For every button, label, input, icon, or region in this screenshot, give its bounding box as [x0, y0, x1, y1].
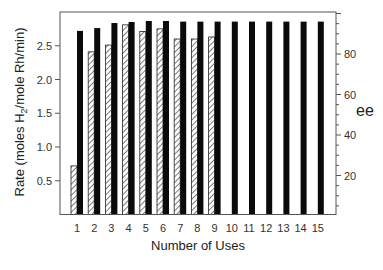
ee-bar — [266, 22, 272, 215]
ee-bar — [301, 22, 307, 215]
rate-bar — [157, 29, 163, 215]
right-tick-label: 60 — [344, 89, 356, 101]
x-tick-label: 4 — [126, 222, 132, 234]
ee-bar — [111, 23, 117, 214]
ee-bar — [94, 28, 100, 214]
right-tick-label: 80 — [344, 48, 356, 60]
rate-bar — [71, 166, 77, 215]
x-tick-label: 3 — [108, 222, 114, 234]
ee-bar — [249, 22, 255, 215]
right-axis: 20406080 — [336, 14, 356, 206]
x-tick-label: 15 — [312, 222, 324, 234]
rate-bar — [88, 52, 94, 215]
bars-group — [71, 21, 324, 215]
ee-bar — [197, 22, 203, 215]
rate-bar — [123, 25, 129, 215]
x-tick-label: 7 — [177, 222, 183, 234]
right-tick-label: 40 — [344, 129, 356, 141]
left-tick-label: 2.5 — [37, 40, 52, 52]
x-tick-label: 9 — [212, 222, 218, 234]
ee-bar — [180, 22, 186, 215]
rate-bar — [209, 37, 215, 215]
ee-bar — [163, 21, 169, 215]
x-tick-label: 12 — [260, 222, 272, 234]
x-tick-label: 11 — [243, 222, 254, 234]
ee-bar — [77, 31, 83, 215]
x-tick-label: 14 — [294, 222, 306, 234]
x-tick-label: 5 — [143, 222, 149, 234]
x-tick-label: 6 — [160, 222, 166, 234]
left-axis: 0.51.01.52.02.5 — [37, 40, 60, 187]
left-tick-label: 1.5 — [37, 107, 52, 119]
right-tick-label: 20 — [344, 170, 356, 182]
rate-bar — [174, 39, 180, 215]
ee-bar — [318, 22, 324, 215]
left-tick-label: 1.0 — [37, 141, 52, 153]
x-tick-label: 13 — [277, 222, 289, 234]
rate-bar — [191, 39, 197, 215]
y2-axis-title: ee — [356, 102, 374, 119]
x-tick-label: 1 — [74, 222, 80, 234]
ee-bar — [283, 22, 289, 215]
ee-bar — [129, 22, 135, 214]
ee-bar — [146, 21, 152, 215]
x-axis: 123456789101112131415 — [74, 222, 324, 234]
ee-bar — [232, 22, 238, 215]
rate-bar — [140, 32, 146, 215]
left-tick-label: 2.0 — [37, 74, 52, 86]
x-axis-title: Number of Uses — [151, 238, 245, 253]
bar-chart: 0.51.01.52.02.5 20406080 123456789101112… — [0, 0, 383, 270]
x-tick-label: 10 — [226, 222, 238, 234]
rate-bar — [105, 45, 111, 214]
left-tick-label: 0.5 — [37, 175, 52, 187]
x-tick-label: 8 — [194, 222, 200, 234]
y-axis-title: Rate (moles H2/mole Rh/min) — [12, 27, 29, 196]
x-tick-label: 2 — [91, 222, 97, 234]
ee-bar — [215, 22, 221, 215]
